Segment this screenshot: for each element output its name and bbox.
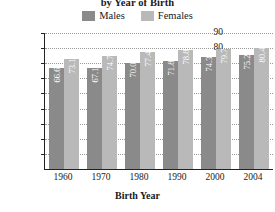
x-axis-tick-label: 1960 bbox=[44, 172, 82, 182]
bar-males-2004: 75.2 bbox=[239, 55, 254, 169]
bar-females-1990: 78.8 bbox=[178, 50, 193, 169]
bar-value-label: 80.4 bbox=[258, 47, 266, 62]
x-axis-title: Birth Year bbox=[0, 190, 275, 201]
bar-value-label: 71.8 bbox=[167, 60, 175, 75]
x-axis-tick-labels: 196019701980199020002004 bbox=[44, 172, 272, 182]
bar-value-label: 75.2 bbox=[243, 55, 251, 70]
legend-label-males: Males bbox=[99, 11, 125, 21]
legend-item-males: Males bbox=[82, 11, 125, 21]
legend-swatch-females bbox=[141, 11, 154, 21]
bar-value-label: 77.4 bbox=[144, 52, 152, 67]
bar-value-label: 74.3 bbox=[205, 56, 213, 71]
bar-group: 70.077.4 bbox=[121, 33, 159, 169]
bar-series: 66.673.167.174.770.077.471.878.874.379.7… bbox=[45, 33, 273, 169]
x-axis-tick-label: 2000 bbox=[196, 172, 234, 182]
legend-swatch-males bbox=[82, 11, 95, 21]
chart-title: by Year of Birth bbox=[0, 0, 275, 8]
chart-container: by Year of Birth Males Females Life Expe… bbox=[0, 0, 275, 212]
x-axis-tick-label: 1990 bbox=[158, 172, 196, 182]
x-axis-tick-label: 1970 bbox=[82, 172, 120, 182]
bar-males-2000: 74.3 bbox=[201, 57, 216, 169]
bar-females-1970: 74.7 bbox=[102, 56, 117, 169]
bar-value-label: 67.1 bbox=[91, 67, 99, 82]
bar-group: 67.174.7 bbox=[83, 33, 121, 169]
bar-females-2000: 79.7 bbox=[216, 49, 231, 169]
bar-females-1980: 77.4 bbox=[140, 52, 155, 169]
plot-area: 908070605040302010 66.673.167.174.770.07… bbox=[44, 33, 273, 170]
bar-males-1960: 66.6 bbox=[49, 68, 64, 169]
bar-value-label: 79.7 bbox=[220, 48, 228, 63]
x-axis-tick-label: 1980 bbox=[120, 172, 158, 182]
bar-group: 66.673.1 bbox=[45, 33, 83, 169]
bar-females-2004: 80.4 bbox=[254, 48, 269, 169]
bar-value-label: 78.8 bbox=[182, 50, 190, 65]
legend-item-females: Females bbox=[141, 11, 193, 21]
bar-group: 71.878.8 bbox=[159, 33, 197, 169]
x-axis-tick-label: 2004 bbox=[234, 172, 272, 182]
bar-value-label: 74.7 bbox=[106, 56, 114, 71]
bar-value-label: 70.0 bbox=[129, 63, 137, 78]
bar-males-1990: 71.8 bbox=[163, 61, 178, 169]
bar-group: 75.280.4 bbox=[235, 33, 273, 169]
legend-label-females: Females bbox=[158, 11, 193, 21]
bar-value-label: 73.1 bbox=[68, 58, 76, 73]
bar-group: 74.379.7 bbox=[197, 33, 235, 169]
bar-males-1970: 67.1 bbox=[87, 68, 102, 169]
bar-value-label: 66.6 bbox=[53, 68, 61, 83]
chart-legend: Males Females bbox=[0, 11, 275, 21]
bar-females-1960: 73.1 bbox=[64, 59, 79, 169]
bar-males-1980: 70.0 bbox=[125, 63, 140, 169]
